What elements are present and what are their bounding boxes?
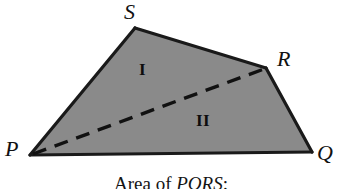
figure-container: P Q R S I II Area of PQRS:	[0, 0, 342, 189]
figure-caption: Area of PQRS:	[0, 173, 342, 189]
region-label-two: II	[196, 112, 210, 129]
region-label-one: I	[139, 61, 146, 78]
vertex-label-q: Q	[317, 142, 333, 164]
quadrilateral-fill	[30, 28, 312, 155]
quadrilateral-diagram	[0, 0, 342, 189]
vertex-label-r: R	[277, 48, 290, 70]
vertex-label-s: S	[124, 1, 135, 23]
caption-figure-name: PQRS	[176, 173, 222, 189]
caption-suffix: :	[223, 173, 228, 189]
caption-prefix: Area of	[114, 173, 176, 189]
vertex-label-p: P	[5, 138, 18, 160]
